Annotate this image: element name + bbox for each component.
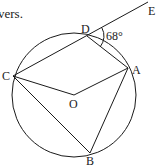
label-d: D <box>81 22 90 36</box>
angle-arc-edA <box>100 28 104 47</box>
label-a: A <box>132 63 141 77</box>
angle-label: 68° <box>106 29 123 43</box>
radius-o-a <box>74 68 128 95</box>
chord-a-b <box>90 68 128 153</box>
label-e: E <box>148 4 155 18</box>
label-b: B <box>86 154 94 167</box>
geometry-diagram: D E C A O B 68° <box>0 0 160 167</box>
label-c: C <box>2 69 10 83</box>
label-o: O <box>69 97 78 111</box>
